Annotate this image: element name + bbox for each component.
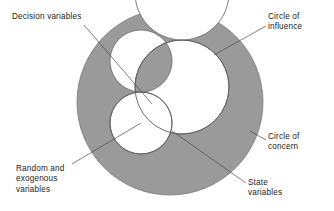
label-decision-variables: Decision variables [12, 12, 81, 22]
label-circle-of-influence: Circle of influence [268, 12, 302, 33]
label-state-variables: State variables [248, 178, 282, 199]
diagram-figure: Decision variables Circle of influence C… [0, 0, 334, 211]
label-circle-of-concern: Circle of concern [268, 132, 300, 153]
label-random-exogenous-variables: Random and exogenous variables [16, 164, 65, 195]
